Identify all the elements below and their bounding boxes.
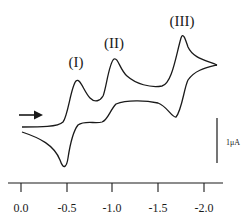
cyclic-voltammogram-chart: (I) (II) (III) 1μA 0.0 -0.5 -1.0 -1.5 -2…	[0, 0, 251, 220]
peak-label-2: (II)	[104, 35, 124, 52]
peak-label-3: (III)	[170, 13, 195, 30]
x-tick-label: -2.0	[195, 201, 214, 215]
scan-direction-arrow-icon	[19, 111, 43, 120]
reverse-scan-curve	[22, 65, 217, 166]
x-tick-label: -1.0	[103, 201, 122, 215]
peak-label-1: (I)	[69, 54, 84, 71]
x-axis: 0.0 -0.5 -1.0 -1.5 -2.0	[8, 183, 223, 215]
scale-bar-label: 1μA	[226, 138, 240, 147]
x-tick-label: -0.5	[58, 201, 77, 215]
x-tick-label: 0.0	[14, 201, 29, 215]
x-tick-label: -1.5	[149, 201, 168, 215]
